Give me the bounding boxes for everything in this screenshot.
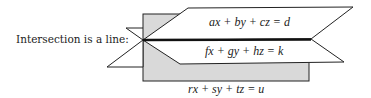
- top-plane-equation: ax + by + cz = d: [209, 15, 290, 30]
- middle-plane-equation: fx + gy + hz = k: [205, 44, 283, 59]
- left-wedge-lower: [107, 40, 143, 67]
- back-plane-equation: rx + sy + tz = u: [188, 82, 264, 97]
- intersection-line: [143, 40, 311, 41]
- left-wedge-upper: [126, 28, 143, 40]
- planes-diagram: [0, 0, 371, 98]
